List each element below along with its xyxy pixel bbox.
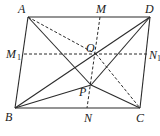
label-D: D (144, 2, 154, 16)
label-P: P (78, 85, 87, 99)
svg-text:1: 1 (157, 54, 160, 63)
svg-text:M: M (5, 47, 17, 61)
label-B: B (5, 110, 13, 124)
label-N: N (83, 111, 93, 125)
label-M: M (95, 2, 107, 16)
label-M1: M 1 (5, 47, 21, 62)
geometry-figure: A D B C M N O P M 1 N 1 (0, 0, 160, 136)
label-A: A (17, 2, 26, 16)
segment-M-N (87, 17, 100, 108)
segment-A-P (28, 17, 91, 85)
label-C: C (136, 111, 145, 125)
svg-text:1: 1 (17, 53, 21, 62)
segment-P-C (91, 85, 140, 108)
segment-C-D (140, 17, 150, 108)
segment-O-C (96, 54, 140, 108)
label-N1: N 1 (148, 48, 160, 63)
segment-A-B (15, 17, 28, 108)
label-O: O (86, 41, 95, 55)
